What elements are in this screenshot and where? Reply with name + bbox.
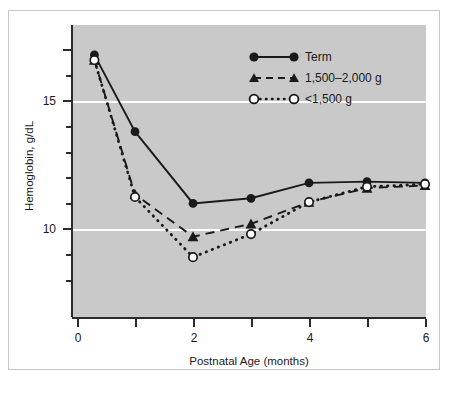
x-tick-4 [309,319,311,327]
x-tick-1 [135,319,137,327]
legend-item-1500-2000g: 1,500–2,000 g [248,68,408,89]
legend-item-under-1500g: <1,500 g [248,89,408,110]
y-tick-9 [66,254,72,256]
y-tick-label-15: 15 [14,95,56,107]
legend-label-under-1500g: <1,500 g [305,92,352,106]
y-tick-17 [63,49,73,51]
gridline-10 [72,229,426,231]
x-tick-label-2: 2 [174,331,214,345]
x-tick-0 [77,319,79,327]
y-tick-8 [66,280,72,282]
y-tick-12 [66,177,72,179]
x-tick-label-6: 6 [406,331,446,345]
x-axis-title: Postnatal Age (months) [72,355,426,367]
chart-legend: Term 1,500–2,000 g <1,500 g [248,47,408,110]
legend-sample-under-1500g [248,89,300,110]
legend-label-term: Term [305,50,332,64]
y-tick-11 [66,203,72,205]
y-tick-label-10: 10 [14,223,56,235]
y-tick-10 [63,228,73,230]
x-tick-5 [367,319,369,327]
y-tick-15 [63,100,73,102]
y-tick-14 [66,126,72,128]
y-tick-13 [66,152,72,154]
x-tick-label-4: 4 [290,331,330,345]
legend-label-1500-2000g: 1,500–2,000 g [305,71,382,85]
y-axis-title: Hemoglobin, g/dL [23,66,35,266]
x-axis-line [72,317,426,319]
x-tick-label-0: 0 [58,331,98,345]
x-tick-6 [425,319,427,327]
legend-item-term: Term [248,47,408,68]
x-tick-3 [251,319,253,327]
y-axis-line [71,25,73,317]
legend-sample-term [248,47,300,68]
y-tick-16 [66,75,72,77]
legend-sample-1500-2000g [248,68,300,89]
x-tick-2 [193,319,195,327]
figure-container: 15 10 Hemoglobin, g/dL 0 2 4 6 Postnatal… [0,0,450,393]
